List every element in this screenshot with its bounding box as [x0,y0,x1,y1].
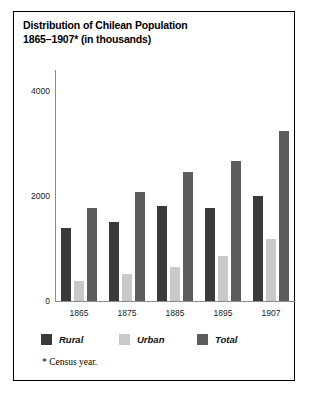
x-tick-label: 1895 [214,308,233,318]
bar-urban-1875 [122,274,133,301]
x-tick-label: 1885 [166,308,185,318]
legend-entry-total: Total [197,332,237,346]
title-line-2: 1865–1907* (in thousands) [23,33,283,47]
bar-urban-1865 [74,281,85,300]
bar-rural-1865 [61,228,72,300]
chart-footnote: * Census year. [42,357,97,367]
bar-total-1875 [135,192,146,300]
bar-urban-1895 [218,256,229,301]
y-tick-label: 0 [45,296,50,306]
x-axis-line [55,301,295,302]
legend-swatch-total [197,334,208,345]
bar-urban-1907 [266,239,277,301]
title-line-1: Distribution of Chilean Population [23,19,283,33]
bar-urban-1885 [170,267,181,301]
y-axis-line [55,70,56,302]
y-tick-label: 4000 [31,86,50,96]
bar-rural-1907 [253,196,264,301]
bar-rural-1885 [157,206,168,300]
bar-rural-1875 [109,222,120,301]
x-tick-label: 1865 [70,308,89,318]
bar-total-1885 [183,172,194,300]
bar-total-1895 [231,161,242,300]
bar-total-1865 [87,208,98,300]
legend-swatch-urban [119,334,130,345]
chart-frame: Distribution of Chilean Population 1865–… [13,11,295,381]
legend-entry-urban: Urban [119,332,164,346]
x-tick-label: 1907 [262,308,281,318]
plot-area: 020004000 18651875188518951907 [55,70,295,302]
bar-total-1907 [279,131,290,301]
bar-rural-1895 [205,208,216,300]
legend-label-total: Total [215,334,237,345]
legend-label-urban: Urban [137,334,164,345]
chart-figure: Distribution of Chilean Population 1865–… [0,0,309,401]
chart-title: Distribution of Chilean Population 1865–… [23,19,283,46]
chart-legend: RuralUrbanTotal [41,332,291,348]
x-tick-label: 1875 [118,308,137,318]
legend-label-rural: Rural [59,334,83,345]
y-tick-label: 2000 [31,191,50,201]
legend-entry-rural: Rural [41,332,83,346]
legend-swatch-rural [41,334,52,345]
